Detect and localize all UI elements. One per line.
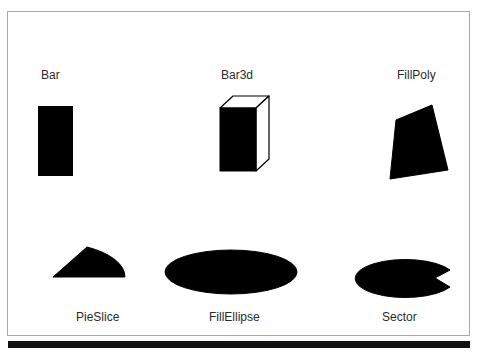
shape-bar	[38, 106, 74, 177]
graphics-canvas-frame: Bar Bar3d FillPoly PieSlice FillE	[7, 11, 470, 336]
shape-label-pieslice: PieSlice	[76, 310, 119, 324]
pieslice-wedge	[53, 247, 125, 277]
shape-label-bar3d: Bar3d	[221, 68, 253, 82]
shape-label-fillpoly: FillPoly	[397, 68, 436, 82]
bar3d-side-face	[256, 96, 269, 171]
window-footer-bar	[8, 341, 470, 348]
sector-wedge	[355, 260, 450, 298]
screen-root: Bar Bar3d FillPoly PieSlice FillE	[0, 0, 484, 355]
shape-label-bar: Bar	[41, 68, 60, 82]
bar-rectangle	[39, 107, 73, 176]
shape-label-sector: Sector	[382, 310, 417, 324]
shape-fillpoly	[386, 100, 454, 186]
shape-fillellipse	[164, 248, 300, 298]
shape-bar3d	[218, 94, 272, 176]
fillpoly-polygon	[390, 105, 448, 179]
shape-label-fillellipse: FillEllipse	[209, 310, 260, 324]
fillellipse-ellipse	[165, 250, 297, 294]
shape-sector	[348, 258, 452, 300]
shape-pieslice	[50, 244, 130, 284]
bar3d-front-face	[220, 108, 256, 171]
